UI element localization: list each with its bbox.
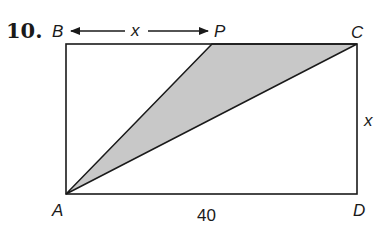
vertex-label-d: D bbox=[353, 201, 365, 220]
measurement-cd: x bbox=[363, 111, 373, 130]
vertex-label-a: A bbox=[51, 201, 63, 220]
vertex-label-c: C bbox=[351, 23, 364, 42]
measurement-ad: 40 bbox=[197, 206, 216, 225]
measurement-bp: x bbox=[130, 21, 140, 40]
vertex-label-b: B bbox=[52, 22, 63, 41]
geometry-figure: 10. B P C A D x x 40 bbox=[0, 0, 384, 228]
shaded-triangle-apc bbox=[66, 44, 357, 194]
problem-number: 10. bbox=[6, 18, 43, 43]
vertex-label-p: P bbox=[214, 22, 226, 41]
